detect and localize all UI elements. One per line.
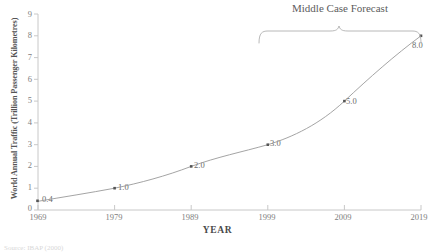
source-caption: Source: IBAP (2000) <box>4 244 63 252</box>
data-markers <box>36 35 422 203</box>
data-marker-1969 <box>36 200 39 203</box>
y-axis-ticks <box>34 14 38 210</box>
data-marker-2009 <box>343 100 346 103</box>
data-line <box>38 36 421 202</box>
data-marker-1989 <box>190 165 193 168</box>
plot-canvas <box>0 0 435 252</box>
data-marker-1979 <box>113 187 116 190</box>
x-axis-ticks <box>38 205 421 210</box>
chart-figure: World Annual Traffic (Trillion Passenger… <box>0 0 435 252</box>
forecast-brace-icon <box>259 26 421 43</box>
data-marker-1999 <box>267 143 270 146</box>
